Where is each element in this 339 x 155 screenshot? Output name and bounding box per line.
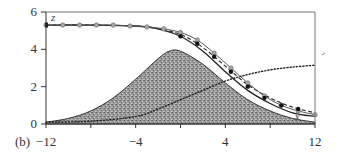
marker-black-dot <box>262 96 266 100</box>
marker-gray-circle <box>128 24 132 28</box>
marker-gray-circle <box>94 23 98 27</box>
stray-mark <box>322 53 325 55</box>
y-axis-label: z <box>50 11 56 23</box>
x-tick-label: 4 <box>222 134 229 149</box>
marker-gray-circle <box>77 23 81 27</box>
marker-gray-circle <box>111 23 115 27</box>
marker-black-dot <box>178 34 182 38</box>
y-tick-label: 2 <box>31 79 38 94</box>
marker-gray-circle <box>61 23 65 27</box>
x-axis-label: x <box>294 110 300 122</box>
x-tick-label: −4 <box>129 134 143 149</box>
marker-gray-circle <box>145 25 149 29</box>
x-tick-label: −12 <box>36 134 56 149</box>
marker-black-dot <box>212 55 216 59</box>
chart: −12−44120246(b)zx <box>0 0 339 155</box>
y-tick-label: 4 <box>31 41 38 56</box>
panel-label: (b) <box>15 134 30 149</box>
y-tick-label: 6 <box>31 4 38 19</box>
plot-area <box>44 23 317 124</box>
x-tick-label: 12 <box>309 134 322 149</box>
series-shaded-gaussian-region <box>46 50 315 124</box>
y-tick-label: 0 <box>31 116 38 131</box>
marker-black-dot <box>279 103 283 107</box>
marker-black-dot <box>195 42 199 46</box>
marker-gray-circle <box>161 27 165 31</box>
marker-black-dot <box>229 70 233 74</box>
marker-black-dot <box>246 84 250 88</box>
